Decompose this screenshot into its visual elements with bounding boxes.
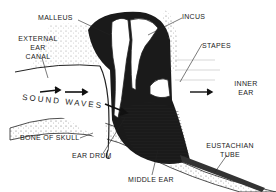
label-external-ear-canal-line1: EXTERNAL xyxy=(14,35,62,43)
ear-canal-upper-wall xyxy=(15,65,100,72)
label-eustachian-tube-line2: TUBE xyxy=(204,151,256,159)
label-external-ear-canal-line3: CANAL xyxy=(14,53,62,61)
label-bone-of-skull: BONE OF SKULL xyxy=(20,134,80,142)
ear-diagram: MALLEUS INCUS STAPES EXTERNAL EAR CANAL … xyxy=(0,0,276,192)
label-middle-ear: MIDDLE EAR xyxy=(128,176,174,184)
inner-ear-arrow xyxy=(190,89,212,95)
label-ear-drum: EAR DRUM xyxy=(72,152,112,160)
label-stapes: STAPES xyxy=(202,42,231,50)
inner-ear-lines xyxy=(175,60,220,80)
label-external-ear-canal-line2: EAR xyxy=(14,44,62,52)
label-eustachian-tube-line1: EUSTACHIAN xyxy=(204,142,256,150)
middle-ear-hatching xyxy=(120,103,190,165)
label-malleus: MALLEUS xyxy=(38,14,73,22)
label-inner-ear-line2: EAR xyxy=(228,89,264,97)
label-incus: INCUS xyxy=(182,13,205,21)
label-inner-ear-line1: INNER xyxy=(228,80,264,88)
